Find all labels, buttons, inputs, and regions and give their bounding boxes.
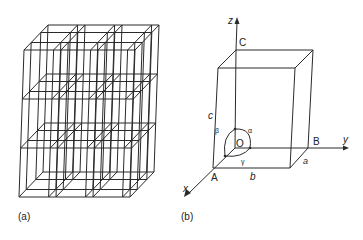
edge-oc xyxy=(235,50,236,148)
lattice-line xyxy=(36,33,41,180)
edge-front-right xyxy=(290,68,295,168)
lattice-line xyxy=(50,123,74,148)
edge-back-right xyxy=(308,50,313,148)
y-axis-arrow-icon xyxy=(343,146,349,151)
lattice-line xyxy=(59,74,83,99)
figure-canvas: (a) z C c β α xyxy=(0,0,363,240)
lattice-line xyxy=(73,33,78,180)
label-origin: O xyxy=(236,138,244,149)
label-c-point: C xyxy=(239,37,246,48)
caption-b: (b) xyxy=(181,211,193,222)
lattice-line xyxy=(93,172,117,197)
lattice-line xyxy=(91,25,115,50)
edge-top-right xyxy=(295,50,313,68)
lattice-line xyxy=(19,50,24,197)
z-axis-arrow-icon xyxy=(235,17,240,24)
lattice-line xyxy=(96,74,120,99)
unit-cell-diagram xyxy=(184,17,349,197)
lattice-line xyxy=(110,33,115,180)
label-gamma: γ xyxy=(241,158,245,166)
lattice-line xyxy=(49,172,73,197)
lattice-line xyxy=(133,74,157,99)
caption-a: (a) xyxy=(18,211,30,222)
edge-c xyxy=(213,68,218,168)
lattice-line xyxy=(124,123,148,148)
lattice-line xyxy=(132,123,156,148)
lattice-line xyxy=(89,74,113,99)
lattice-line xyxy=(147,33,152,180)
lattice-line xyxy=(128,25,152,50)
lattice-line xyxy=(98,25,122,50)
lattice-line xyxy=(126,74,150,99)
lattice-line xyxy=(24,25,48,50)
lattice-line xyxy=(86,172,110,197)
lattice-line xyxy=(87,123,111,148)
label-z: z xyxy=(227,15,233,26)
label-b-point: B xyxy=(313,136,320,147)
lattice-line xyxy=(19,172,43,197)
label-beta: β xyxy=(215,127,219,135)
z-axis xyxy=(236,22,237,50)
lattice-line xyxy=(54,25,78,50)
lattice-line xyxy=(154,25,159,172)
label-b-edge: b xyxy=(250,171,256,182)
lattice-line xyxy=(56,172,80,197)
lattice-line xyxy=(22,74,46,99)
label-c-edge: c xyxy=(208,110,213,121)
lattice-line xyxy=(52,74,76,99)
lattice-line xyxy=(95,123,119,148)
lattice-line xyxy=(58,123,82,148)
label-a-edge: a xyxy=(303,156,308,166)
label-alpha: α xyxy=(248,127,252,134)
lattice-diagram xyxy=(19,25,159,197)
lattice-line xyxy=(123,172,147,197)
angle-gamma-arc xyxy=(225,148,250,156)
lattice-line xyxy=(135,25,159,50)
lattice-line xyxy=(130,172,154,197)
x-axis xyxy=(188,148,235,194)
lattice-line xyxy=(61,25,85,50)
label-y: y xyxy=(342,134,349,145)
angle-beta-arc xyxy=(224,129,235,156)
lattice-line xyxy=(21,123,45,148)
lattice-line xyxy=(26,43,31,190)
label-a-point: A xyxy=(211,172,218,183)
edge-top-left xyxy=(218,50,236,68)
label-x: x xyxy=(182,183,189,194)
